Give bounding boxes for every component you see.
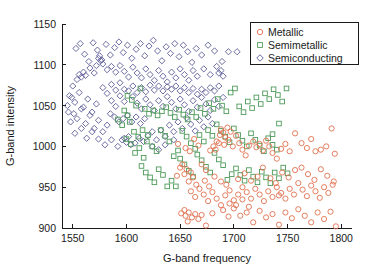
data-point xyxy=(143,96,149,102)
scatter-plot[interactable]: 155016001650170017501800 900950100010501… xyxy=(0,0,375,270)
data-point xyxy=(230,144,235,149)
data-point xyxy=(194,104,200,110)
x-tick-label: 1600 xyxy=(115,232,139,244)
data-point xyxy=(277,121,282,126)
x-axis-title: G-band frequency xyxy=(163,252,252,264)
data-point xyxy=(182,207,187,212)
data-point xyxy=(199,212,204,217)
data-point xyxy=(317,195,322,200)
data-point xyxy=(156,98,162,104)
data-point xyxy=(156,167,161,172)
data-point xyxy=(163,44,169,50)
data-point xyxy=(172,40,178,46)
data-point xyxy=(78,125,84,131)
data-point xyxy=(182,172,187,177)
data-point xyxy=(171,154,176,159)
data-point xyxy=(160,88,166,94)
data-point xyxy=(251,220,256,225)
data-point xyxy=(205,198,210,203)
data-point xyxy=(253,186,258,191)
legend-entry-semiconducting[interactable]: Semiconducting xyxy=(257,52,343,64)
data-point xyxy=(86,58,92,64)
data-point xyxy=(304,145,309,150)
data-point xyxy=(287,149,292,154)
legend-entry-semimetallic[interactable]: Semimetallic xyxy=(258,39,328,51)
data-point xyxy=(203,223,208,228)
data-point xyxy=(115,143,121,149)
data-point xyxy=(161,173,166,178)
data-point xyxy=(173,106,179,112)
data-point xyxy=(329,126,334,131)
data-point xyxy=(292,167,297,172)
data-point xyxy=(321,185,326,190)
data-point xyxy=(159,58,165,64)
data-point xyxy=(156,83,162,89)
data-point xyxy=(112,45,118,51)
data-point xyxy=(176,54,182,60)
data-point xyxy=(124,42,130,48)
data-point xyxy=(100,129,106,135)
data-point xyxy=(183,115,189,121)
data-point xyxy=(130,94,136,100)
data-point xyxy=(177,107,182,112)
data-point xyxy=(241,110,246,115)
data-point xyxy=(132,129,137,134)
legend[interactable]: MetallicSemimetallicSemiconducting xyxy=(250,22,358,64)
data-point xyxy=(237,104,242,109)
data-point xyxy=(312,177,317,182)
data-point xyxy=(85,96,91,102)
data-point xyxy=(116,39,122,45)
data-point xyxy=(173,75,179,81)
data-point xyxy=(196,117,202,123)
data-point xyxy=(156,67,162,73)
data-point xyxy=(133,114,139,120)
data-point xyxy=(249,131,254,136)
data-point xyxy=(268,181,273,186)
data-point xyxy=(267,97,272,102)
data-point xyxy=(171,129,177,135)
data-point xyxy=(198,106,203,111)
data-point xyxy=(210,189,215,194)
data-point xyxy=(195,152,200,157)
data-point xyxy=(74,116,80,122)
data-point xyxy=(218,179,223,184)
data-point xyxy=(76,89,82,95)
data-point xyxy=(93,101,99,107)
data-point xyxy=(283,210,288,215)
data-point xyxy=(255,180,260,185)
data-point xyxy=(296,181,301,186)
data-point xyxy=(270,212,275,217)
data-point xyxy=(186,108,192,114)
data-point xyxy=(108,81,114,87)
data-point xyxy=(148,175,153,180)
figure-container: 155016001650170017501800 900950100010501… xyxy=(0,0,375,270)
data-point xyxy=(71,111,77,117)
data-point xyxy=(169,178,174,183)
data-point xyxy=(229,172,234,177)
data-point xyxy=(240,147,245,152)
data-point xyxy=(313,149,318,154)
data-point xyxy=(234,49,240,55)
series-metallic xyxy=(174,125,338,229)
data-point xyxy=(133,46,139,52)
data-point xyxy=(138,85,144,91)
data-point xyxy=(120,49,126,55)
data-point xyxy=(246,99,251,104)
data-point xyxy=(205,42,211,48)
data-point xyxy=(154,48,160,54)
data-point xyxy=(72,99,78,105)
data-point xyxy=(254,95,259,100)
data-point xyxy=(240,185,245,190)
data-point xyxy=(225,178,230,183)
data-point xyxy=(73,45,79,51)
data-point xyxy=(84,135,90,141)
data-point xyxy=(147,82,153,88)
data-point xyxy=(309,136,314,141)
data-point xyxy=(134,70,140,76)
data-point xyxy=(201,139,206,144)
data-point xyxy=(244,210,249,215)
data-point xyxy=(215,97,220,102)
data-point xyxy=(299,165,304,170)
data-point xyxy=(328,209,333,214)
data-point xyxy=(226,214,231,219)
